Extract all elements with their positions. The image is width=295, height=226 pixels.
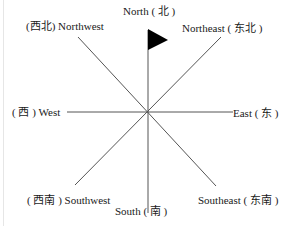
label-northwest: (西北) Northwest (26, 20, 104, 32)
label-north: North ( 北 ) (123, 5, 175, 17)
label-south: South ( 南 ) (115, 205, 167, 217)
label-west: ( 西 ) West (12, 106, 60, 118)
label-southwest: ( 西南 ) Southwest (27, 194, 110, 206)
flag-icon (148, 29, 168, 50)
label-northeast: Northeast ( 东北 ) (182, 22, 262, 34)
label-east: East ( 东 ) (233, 107, 279, 119)
label-southeast: Southeast ( 东南 ) (198, 194, 278, 206)
